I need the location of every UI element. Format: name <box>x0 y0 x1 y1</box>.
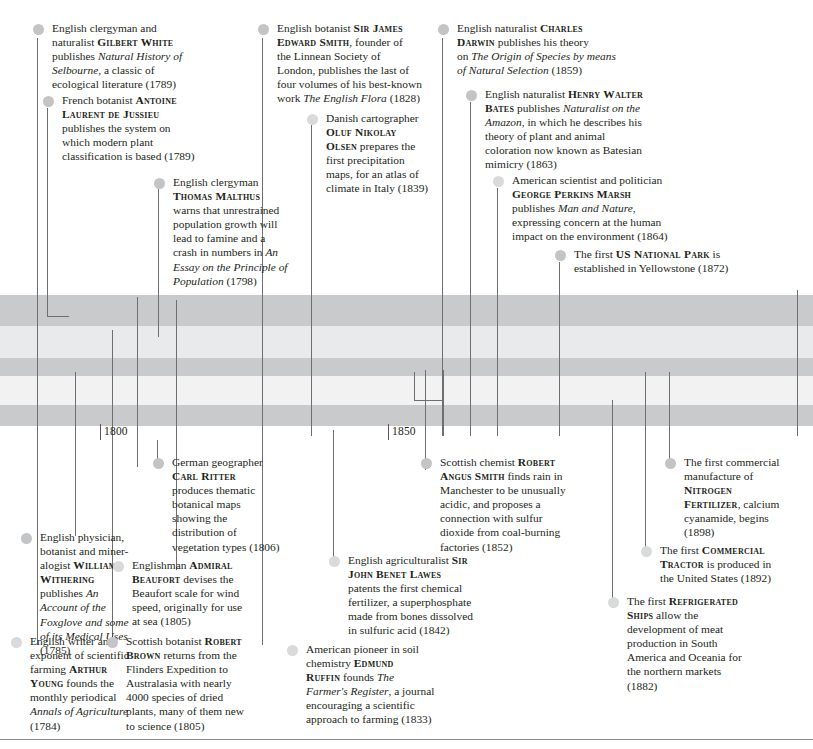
event-text: Scottish botanist Robert Brown returns f… <box>126 634 276 733</box>
line-text: French botanist <box>62 94 135 106</box>
leader-withering <box>75 372 76 536</box>
leader-nitrogen <box>669 372 670 464</box>
event-text: The first US National Park is establishe… <box>574 247 789 275</box>
line-italic: The Origin of Species by means <box>471 50 616 62</box>
line-text: , calcium <box>738 498 780 510</box>
line-italic: The <box>377 671 394 683</box>
line-text: founds <box>340 671 377 683</box>
line-text: English naturalist <box>457 22 540 34</box>
band-pale-1 <box>0 376 813 405</box>
line-text: The first <box>574 248 616 260</box>
line-text: acidic, and proposes a <box>440 498 541 510</box>
line-emph: Ruffin <box>306 671 340 683</box>
line-text: , a classic of <box>98 64 154 76</box>
line-italic: An <box>86 587 99 599</box>
line-text: chemistry <box>306 657 354 669</box>
line-emph: Robert <box>204 635 241 647</box>
line-italic: Natural History of <box>98 50 182 62</box>
line-text: English naturalist <box>485 88 568 100</box>
line-text: naturalist <box>52 36 97 48</box>
line-text: population growth will <box>173 218 277 230</box>
line-emph: George Perkins Marsh <box>512 188 631 200</box>
line-emph: Bates <box>485 102 514 114</box>
line-text: (1882) <box>627 680 657 692</box>
line-text: production in South <box>627 637 718 649</box>
line-text: English agriculturalist <box>348 554 452 566</box>
leader-bates <box>470 102 471 436</box>
line-text: distribution of <box>172 526 237 538</box>
line-emph: Robert <box>518 456 555 468</box>
band-dark-1 <box>0 295 813 326</box>
line-text: vegetation types (1806) <box>172 541 280 553</box>
line-text: made from bones dissolved <box>348 610 473 622</box>
line-text: plants, many of them new <box>126 705 244 717</box>
line-emph: Beaufort <box>132 573 180 585</box>
line-text: publishes <box>40 587 86 599</box>
line-emph: Gilbert White <box>97 36 173 48</box>
line-text: encouraging a scientific <box>306 699 415 711</box>
line-text: farming <box>30 663 69 675</box>
line-text: the Linnean Society of <box>277 50 380 62</box>
line-text: approach to farming (1833) <box>306 713 432 725</box>
event-text: English naturalist Charles Darwin publis… <box>457 21 647 77</box>
band-dark-2 <box>0 358 813 376</box>
line-italic: Farmer's Register <box>306 685 388 697</box>
line-text: publishes <box>512 202 558 214</box>
line-text: showing the <box>172 512 227 524</box>
line-text: publishes <box>52 50 98 62</box>
axis-label-1850: 1850 <box>392 425 416 437</box>
line-emph: Edmund <box>354 657 394 669</box>
event-dot <box>421 458 432 469</box>
event-dot <box>493 176 504 187</box>
event-dot <box>113 561 124 572</box>
event-dot <box>154 178 165 189</box>
line-text: , a journal <box>388 685 434 697</box>
leader-ritter <box>137 297 138 467</box>
line-emph: William <box>73 559 116 571</box>
event-dot <box>153 458 164 469</box>
line-text: cyanamide, begins <box>684 512 769 524</box>
line-text: Scottish botanist <box>126 635 204 647</box>
band-light-1 <box>0 326 813 358</box>
line-emph: Arthur <box>69 663 107 675</box>
line-text: expressing concern at the human <box>512 216 661 228</box>
line-text: the northern markets <box>627 665 721 677</box>
line-text: is <box>710 248 720 260</box>
line-text: publishes <box>514 102 563 114</box>
line-text: American scientist and politician <box>512 174 662 186</box>
line-text: four volumes of his best-known <box>277 78 422 90</box>
leader-refrigerated <box>612 400 613 608</box>
line-emph: Tractor <box>660 558 704 570</box>
line-italic: of Natural Selection <box>457 64 549 76</box>
event-text: English clergyman and naturalist Gilbert… <box>52 21 237 91</box>
line-text: (1784) <box>30 720 60 732</box>
line-text: development of meat <box>627 623 723 635</box>
line-text: America and Oceania for <box>627 651 742 663</box>
line-text: maps, for an atlas of <box>326 168 419 180</box>
leader-angus-elbow <box>414 400 444 401</box>
line-emph: Angus Smith <box>440 470 505 482</box>
band-dark-3 <box>0 405 813 426</box>
line-text: at sea (1805) <box>132 615 191 627</box>
leader-withering-young <box>37 430 38 645</box>
line-text: English botanist <box>277 22 354 34</box>
line-text: patents the first chemical <box>348 582 462 594</box>
line-text: publishes the system on <box>62 122 171 134</box>
line-text: ecological literature (1789) <box>52 78 176 90</box>
line-emph: Edward Smith <box>277 36 349 48</box>
line-emph: Ships <box>627 609 653 621</box>
line-emph: Admiral <box>189 559 232 571</box>
line-text: Englishman <box>132 559 189 571</box>
line-italic: An <box>265 246 278 258</box>
event-dot <box>287 645 298 656</box>
line-emph: Nitrogen <box>684 484 732 496</box>
line-text: impact on the environment (1864) <box>512 230 668 242</box>
line-text: Danish cartographer <box>326 112 419 124</box>
line-emph: Olsen <box>326 140 357 152</box>
axis-label-1800: 1800 <box>104 425 128 437</box>
event-dot <box>608 597 619 608</box>
leader-angus-2 <box>443 370 444 436</box>
line-text: The first commercial <box>684 456 780 468</box>
event-text: English naturalist Henry Walter Bates pu… <box>485 87 685 172</box>
line-text: Manchester to be unusually <box>440 484 566 496</box>
